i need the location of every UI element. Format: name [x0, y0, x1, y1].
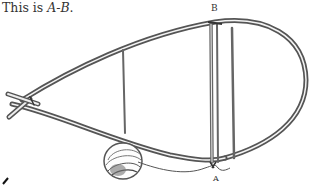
- figure-canvas: This is A-B.: [0, 0, 312, 187]
- pencil-mark: [3, 178, 8, 184]
- frame-illustration: [0, 0, 312, 187]
- yarn-strand: [138, 162, 230, 172]
- point-b-label: B: [211, 3, 218, 13]
- bent-frame: [12, 21, 306, 160]
- point-a-label: A: [213, 174, 219, 183]
- yarn-ball: [104, 143, 142, 179]
